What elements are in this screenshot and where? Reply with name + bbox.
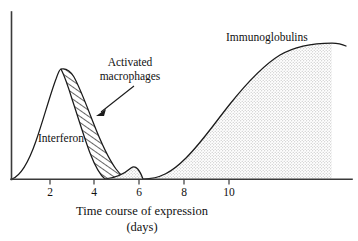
label-macrophages-line2: macrophages	[100, 70, 161, 83]
macrophages-hatched-band	[61, 69, 131, 179]
series-activated-macrophages	[61, 69, 143, 179]
label-macrophages-line1: Activated	[108, 56, 153, 68]
x-axis-tick-labels: 2 4 6 8 10	[47, 186, 235, 198]
label-interferon: Interferon	[38, 132, 84, 144]
tick-label-8: 8	[181, 186, 187, 198]
x-axis-title-line1: Time course of expression	[76, 204, 209, 218]
series-immunoglobulins	[143, 43, 346, 179]
chart-svg: 2 4 6 8 10 Time course of expression (da…	[0, 0, 358, 241]
macrophages-leader-line	[101, 86, 134, 112]
tick-label-4: 4	[91, 186, 97, 198]
tick-label-2: 2	[47, 186, 53, 198]
tick-label-6: 6	[136, 186, 142, 198]
macrophages-leader-arrowhead	[96, 109, 106, 116]
label-immunoglobulins: Immunoglobulins	[226, 31, 308, 44]
chart-figure: 2 4 6 8 10 Time course of expression (da…	[0, 0, 358, 241]
x-axis-title-line2: (days)	[126, 220, 157, 234]
tick-label-10: 10	[223, 186, 235, 198]
immunoglobulins-area	[143, 43, 345, 179]
x-axis-ticks	[50, 180, 229, 185]
